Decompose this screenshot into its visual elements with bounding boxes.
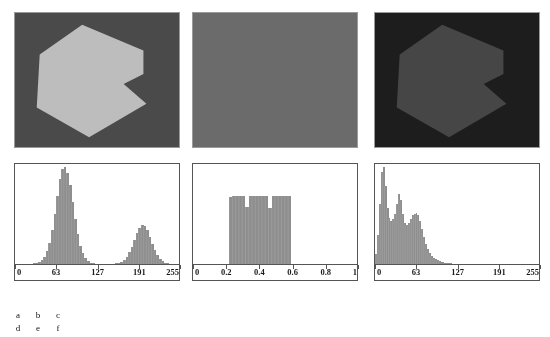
tick-label-0.8: 0.8 — [320, 267, 331, 278]
image-panel-c — [374, 12, 540, 148]
tick-label-255: 255 — [166, 267, 179, 278]
caption-cell-a: a — [9, 309, 27, 321]
x-axis-ticks-e: 00.20.40.60.81 — [193, 265, 357, 280]
hexagon-notch-shape-b — [193, 13, 357, 147]
caption-cell-e: e — [29, 322, 47, 334]
histogram-bars-e — [193, 164, 357, 264]
image-panel-a — [14, 12, 180, 148]
tick-label-127: 127 — [451, 267, 464, 278]
histogram-panel-f: 063127191255 — [374, 163, 540, 283]
tick-label-0.2: 0.2 — [221, 267, 232, 278]
histogram-plot-area-d — [14, 163, 180, 265]
tick-label-191: 191 — [133, 267, 146, 278]
tick-label-255: 255 — [526, 267, 539, 278]
tick-mark — [375, 265, 376, 269]
histogram-bars-d — [15, 164, 179, 264]
histogram-panel-e: 00.20.40.60.81 — [192, 163, 358, 283]
tick-mark — [15, 265, 16, 269]
x-axis-ticks-d: 063127191255 — [15, 265, 179, 280]
histogram-plot-area-e — [192, 163, 358, 265]
hexagon-notch-shape-c — [375, 13, 539, 147]
caption-cell-d: d — [9, 322, 27, 334]
tick-label-0: 0 — [195, 267, 199, 278]
tick-label-191: 191 — [493, 267, 506, 278]
x-axis-d: 063127191255 — [14, 265, 180, 281]
caption-cell-b: b — [29, 309, 47, 321]
tick-label-0: 0 — [17, 267, 21, 278]
x-axis-e: 00.20.40.60.81 — [192, 265, 358, 281]
tick-mark — [540, 265, 541, 269]
tick-label-1: 1 — [353, 267, 357, 278]
caption-cell-f: f — [49, 322, 67, 334]
tick-label-63: 63 — [52, 267, 61, 278]
tick-mark — [193, 265, 194, 269]
histogram-bars-f — [375, 164, 539, 264]
hexagon-notch-shape-a — [15, 13, 179, 147]
tick-mark — [358, 265, 359, 269]
histogram-panel-d: 063127191255 — [14, 163, 180, 283]
x-axis-ticks-f: 063127191255 — [375, 265, 539, 280]
histogram-plot-area-f — [374, 163, 540, 265]
caption-cell-c: c — [49, 309, 67, 321]
tick-label-0.6: 0.6 — [287, 267, 298, 278]
figure-container: 063127191255 00.20.40.60.81 063127191255… — [0, 0, 550, 337]
tick-label-127: 127 — [91, 267, 104, 278]
image-panel-b — [192, 12, 358, 148]
caption-grid: a b c d e f — [9, 309, 67, 334]
x-axis-f: 063127191255 — [374, 265, 540, 281]
tick-mark — [180, 265, 181, 269]
tick-label-0: 0 — [377, 267, 381, 278]
tick-label-63: 63 — [412, 267, 421, 278]
tick-label-0.4: 0.4 — [254, 267, 265, 278]
